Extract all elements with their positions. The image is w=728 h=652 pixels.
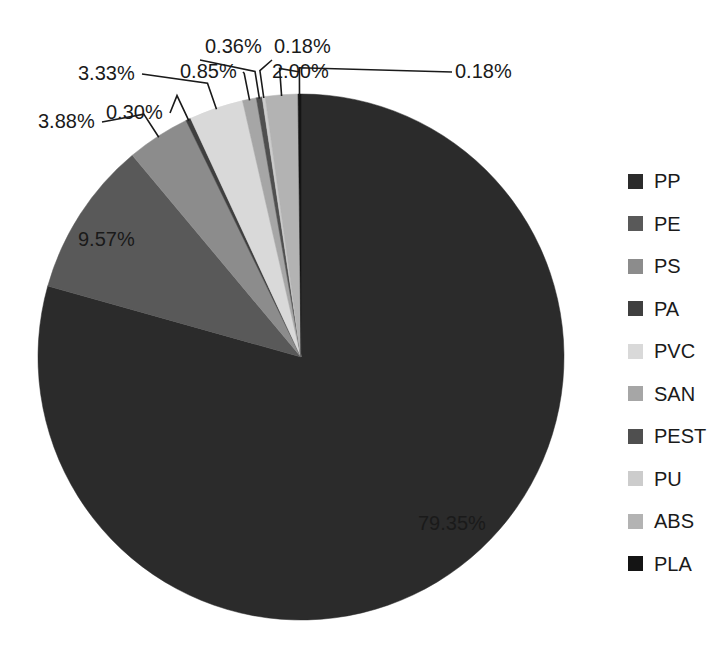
legend-item-ps[interactable]: PS: [628, 245, 724, 288]
legend-swatch-icon: [628, 386, 643, 401]
legend-item-pest[interactable]: PEST: [628, 415, 724, 458]
legend-swatch-icon: [628, 216, 643, 231]
slice-label-ps: 3.88%: [38, 110, 95, 132]
legend-label: PEST: [654, 426, 706, 446]
legend-item-pp[interactable]: PP: [628, 160, 724, 203]
legend-label: PVC: [654, 341, 695, 361]
legend-item-pe[interactable]: PE: [628, 203, 724, 246]
slice-label-pa: 0.30%: [106, 101, 163, 123]
legend-item-pvc[interactable]: PVC: [628, 330, 724, 373]
pie-labels-canvas: 0.18% 0.18% 0.36% 2.00% 0.85% 3.33% 0.30…: [0, 0, 728, 652]
legend: PP PE PS PA PVC SAN PEST PU: [628, 160, 724, 585]
legend-swatch-icon: [628, 429, 643, 444]
legend-label: PE: [654, 214, 681, 234]
legend-swatch-icon: [628, 174, 643, 189]
slice-label-pp: 79.35%: [418, 512, 486, 534]
legend-item-pu[interactable]: PU: [628, 458, 724, 501]
legend-label: PS: [654, 256, 681, 276]
legend-item-san[interactable]: SAN: [628, 373, 724, 416]
legend-swatch-icon: [628, 344, 643, 359]
slice-label-pla: 0.18%: [455, 60, 512, 82]
legend-item-pla[interactable]: PLA: [628, 543, 724, 586]
slice-label-abs: 2.00%: [272, 60, 329, 82]
legend-label: PA: [654, 299, 679, 319]
legend-swatch-icon: [628, 471, 643, 486]
slice-label-pest: 0.36%: [205, 35, 262, 57]
legend-label: PP: [654, 171, 681, 191]
legend-item-pa[interactable]: PA: [628, 288, 724, 331]
legend-label: ABS: [654, 511, 694, 531]
legend-label: PLA: [654, 554, 692, 574]
legend-swatch-icon: [628, 556, 643, 571]
legend-swatch-icon: [628, 301, 643, 316]
legend-label: SAN: [654, 384, 695, 404]
slice-label-pvc: 3.33%: [78, 62, 135, 84]
slice-label-pe: 9.57%: [78, 228, 135, 250]
slice-label-san: 0.85%: [180, 60, 237, 82]
slice-label-pu: 0.18%: [274, 35, 331, 57]
legend-item-abs[interactable]: ABS: [628, 500, 724, 543]
legend-label: PU: [654, 469, 682, 489]
pie-chart: 0.18% 0.18% 0.36% 2.00% 0.85% 3.33% 0.30…: [0, 0, 728, 652]
legend-swatch-icon: [628, 514, 643, 529]
legend-swatch-icon: [628, 259, 643, 274]
